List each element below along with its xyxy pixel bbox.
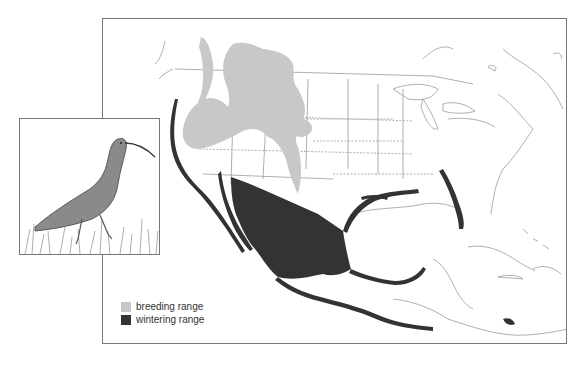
wintering-swatch bbox=[121, 315, 131, 325]
legend-item-wintering: wintering range bbox=[121, 314, 204, 326]
range-map bbox=[102, 18, 567, 344]
legend-item-breeding: breeding range bbox=[121, 301, 204, 313]
legend-label: wintering range bbox=[136, 315, 204, 325]
legend-label: breeding range bbox=[136, 302, 203, 312]
map-legend: breeding range wintering range bbox=[121, 301, 204, 327]
curlew-illustration bbox=[20, 119, 160, 255]
breeding-range bbox=[183, 37, 312, 194]
north-america-map bbox=[103, 19, 567, 344]
breeding-swatch bbox=[121, 302, 131, 312]
bird-illustration-inset bbox=[19, 118, 160, 255]
